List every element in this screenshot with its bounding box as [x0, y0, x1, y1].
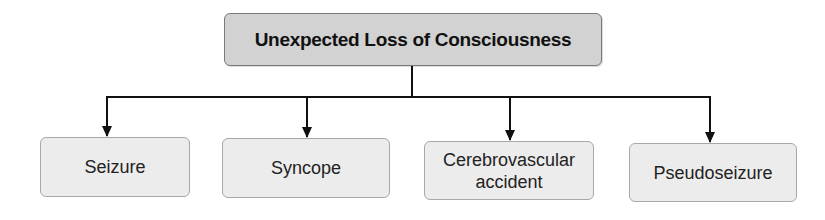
child-node-seizure: Seizure	[40, 137, 190, 197]
child-node-pseudoseizure: Pseudoseizure	[629, 143, 797, 202]
child-node-cerebrovascular-accident: Cerebrovascular accident	[424, 141, 594, 200]
child-node-syncope: Syncope	[222, 138, 390, 198]
child-node-label: Cerebrovascular accident	[435, 149, 583, 193]
child-node-label: Seizure	[84, 156, 145, 178]
arrowhead-icon	[102, 126, 112, 137]
root-node: Unexpected Loss of Consciousness	[224, 13, 602, 66]
arrowhead-icon	[705, 132, 715, 143]
child-node-label: Syncope	[271, 157, 341, 179]
root-node-label: Unexpected Loss of Consciousness	[255, 29, 572, 51]
arrowhead-icon	[505, 130, 515, 141]
arrowhead-icon	[302, 127, 312, 138]
child-node-label: Pseudoseizure	[653, 162, 772, 184]
